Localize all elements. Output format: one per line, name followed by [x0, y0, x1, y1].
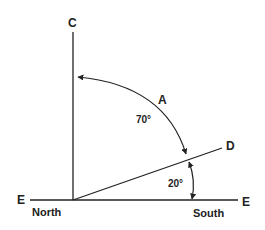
- label-north: North: [32, 206, 62, 218]
- label-e-left: E: [17, 193, 25, 207]
- label-d: D: [226, 139, 235, 153]
- angle-20-label: 20°: [168, 178, 183, 189]
- angle-70-label: 70°: [136, 114, 151, 125]
- arc-a-arrow: [78, 77, 186, 154]
- angle-diagram: C E E D A 70° 20° North South: [0, 0, 265, 230]
- label-c: C: [68, 16, 77, 30]
- label-south: South: [193, 207, 224, 219]
- ray-line-d: [73, 148, 222, 200]
- label-a: A: [158, 93, 167, 107]
- label-e-right: E: [242, 195, 250, 209]
- angle-20-arrow: [189, 162, 193, 199]
